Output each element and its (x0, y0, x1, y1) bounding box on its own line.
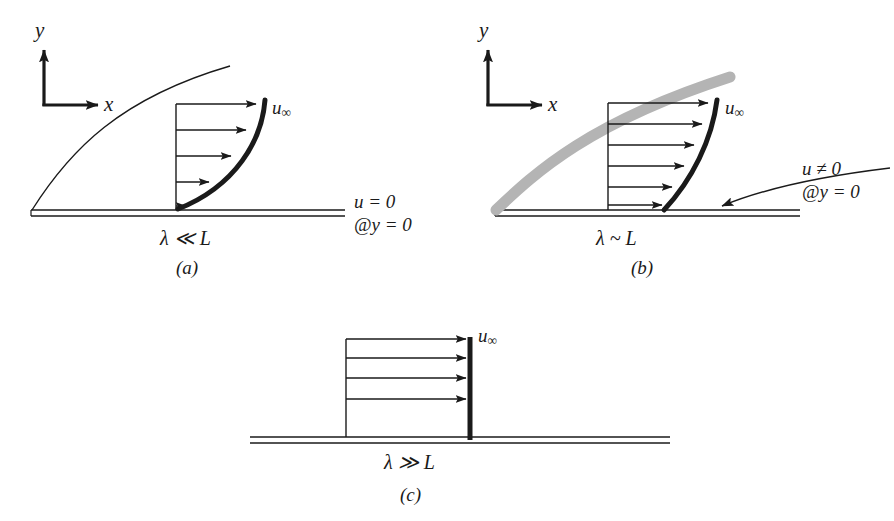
y-axis-label-b: y (479, 20, 488, 41)
axes-a (42, 50, 98, 106)
panel-c-drawing (200, 300, 700, 521)
panel-caption-a: (a) (176, 258, 198, 277)
panel-b-drawing (440, 0, 894, 285)
boundary-condition-b-line2: @y = 0 (802, 180, 860, 203)
scale-label-a: λ ≪ L (160, 228, 211, 248)
boundary-layer-edge-a (32, 66, 230, 210)
panel-c: u∞ λ ≫ L (c) (200, 300, 700, 521)
boundary-condition-a: u = 0 @y = 0 (354, 190, 412, 236)
boundary-layer-band-b (496, 77, 730, 210)
freestream-velocity-label-b: u∞ (725, 98, 745, 120)
panel-a: y x u∞ u = 0 @y = 0 λ ≪ L (a) (0, 0, 440, 285)
freestream-subscript-a: ∞ (282, 105, 292, 120)
freestream-subscript-b: ∞ (735, 105, 745, 120)
plate-a (31, 210, 345, 216)
boundary-layer-figure: y x u∞ u = 0 @y = 0 λ ≪ L (a) (0, 0, 894, 521)
scale-label-c: λ ≫ L (384, 452, 435, 472)
freestream-symbol-c: u (478, 325, 488, 346)
x-axis-label-a: x (104, 94, 113, 115)
freestream-symbol-b: u (725, 97, 735, 118)
velocity-arrows-c (346, 339, 466, 399)
velocity-profile-curve-a (178, 100, 265, 209)
velocity-profile-curve-b (664, 100, 717, 210)
axes-b (486, 50, 542, 106)
boundary-condition-a-line1: u = 0 (354, 190, 412, 213)
boundary-condition-b-line1: u ≠ 0 (802, 157, 860, 180)
scale-label-b: λ ~ L (596, 228, 637, 248)
boundary-condition-b: u ≠ 0 @y = 0 (802, 157, 860, 203)
freestream-subscript-c: ∞ (488, 333, 498, 348)
panel-b: y x u∞ u ≠ 0 @y = 0 λ ~ L (b) (440, 0, 894, 285)
panel-caption-b: (b) (631, 258, 653, 277)
freestream-velocity-label-c: u∞ (478, 326, 498, 348)
boundary-condition-a-line2: @y = 0 (354, 213, 412, 236)
freestream-symbol-a: u (272, 97, 282, 118)
plate-b (495, 210, 800, 216)
plate-c (250, 437, 670, 443)
y-axis-label-a: y (35, 20, 44, 41)
x-axis-label-b: x (548, 94, 557, 115)
freestream-velocity-label-a: u∞ (272, 98, 292, 120)
panel-a-drawing (0, 0, 440, 285)
panel-caption-c: (c) (400, 485, 421, 504)
